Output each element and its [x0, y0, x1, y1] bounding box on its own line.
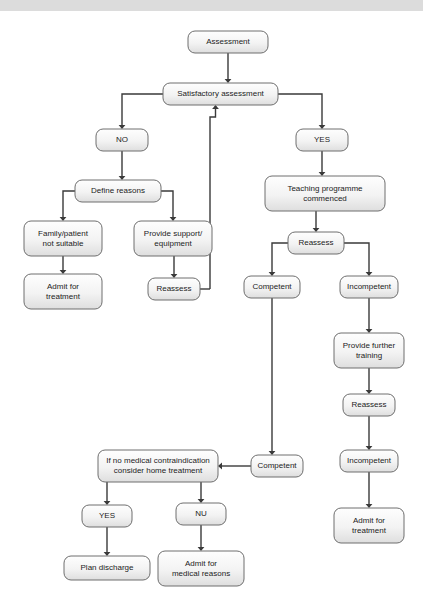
edge-line — [210, 106, 216, 289]
flowchart-canvas: AssessmentSatisfactory assessmentNOYESDe… — [0, 0, 423, 610]
node-label: not suitable — [43, 239, 84, 248]
edge-arrowhead — [366, 329, 373, 333]
edge-line — [344, 243, 369, 275]
flow-node-admit-treatment-left[interactable]: Admit fortreatment — [24, 274, 102, 309]
flow-node-assessment[interactable]: Assessment — [188, 31, 268, 53]
edge-arrowhead — [218, 463, 222, 470]
node-label: If no medical contraindication — [106, 456, 210, 465]
node-label: Family/patient — [38, 229, 89, 238]
edge-arrowhead — [366, 446, 373, 450]
node-label: NU — [195, 509, 207, 518]
flow-node-teaching-programme[interactable]: Teaching programmecommenced — [265, 176, 385, 211]
edge-arrowhead — [366, 390, 373, 394]
flow-node-reassess-right[interactable]: Reassess — [288, 232, 344, 254]
flowchart-svg: AssessmentSatisfactory assessmentNOYESDe… — [0, 0, 423, 610]
edge-arrowhead — [319, 172, 326, 176]
node-label: consider home treatment — [114, 466, 203, 475]
node-label: Plan discharge — [81, 563, 134, 572]
flow-node-reassess-right-2[interactable]: Reassess — [343, 394, 395, 416]
edge-arrowhead — [319, 125, 326, 129]
flow-node-home-treatment[interactable]: If no medical contraindicationconsider h… — [98, 450, 218, 482]
flow-node-provide-support[interactable]: Provide support/equipment — [134, 221, 212, 256]
edge-line — [161, 191, 173, 220]
flow-node-no-2[interactable]: NU — [176, 503, 226, 525]
edge-arrowhead — [60, 217, 67, 221]
node-label: treatment — [352, 526, 387, 535]
edge-arrowhead — [269, 272, 276, 276]
flow-node-plan-discharge[interactable]: Plan discharge — [64, 556, 150, 580]
flow-node-reassess-left[interactable]: Reassess — [148, 278, 200, 300]
flow-node-yes-2[interactable]: YES — [82, 505, 132, 527]
edge-arrowhead — [366, 504, 373, 508]
node-label: Assessment — [206, 37, 250, 46]
node-label: Incompetent — [347, 282, 392, 291]
flow-node-admit-medical-reasons[interactable]: Admit formedical reasons — [158, 551, 244, 586]
node-label: Define reasons — [91, 186, 145, 195]
edge-arrowhead — [225, 79, 232, 83]
node-label: Teaching programme — [287, 184, 363, 193]
node-label: Reassess — [298, 238, 333, 247]
edge-arrowhead — [119, 176, 126, 180]
edge-arrowhead — [366, 272, 373, 276]
node-label: Satisfactory assessment — [177, 89, 264, 98]
node-label: Reassess — [351, 400, 386, 409]
node-label: Admit for — [353, 516, 385, 525]
edge-arrowhead — [60, 270, 67, 274]
edge-line — [122, 94, 163, 128]
node-label: training — [356, 351, 382, 360]
nodes-layer: AssessmentSatisfactory assessmentNOYESDe… — [24, 31, 404, 586]
node-label: Admit for — [185, 559, 217, 568]
node-label: Provide support/ — [144, 229, 203, 238]
edge-line — [63, 191, 75, 220]
flow-node-provide-training[interactable]: Provide furthertraining — [334, 333, 404, 368]
node-label: YES — [314, 135, 330, 144]
edge-arrowhead — [269, 451, 276, 455]
edge-arrowhead — [104, 501, 111, 505]
node-label: Reassess — [156, 284, 191, 293]
flow-node-satisfactory[interactable]: Satisfactory assessment — [163, 83, 278, 105]
edge-arrowhead — [104, 552, 111, 556]
node-label: Competent — [257, 461, 297, 470]
node-label: Provide further — [343, 341, 396, 350]
flow-node-define-reasons[interactable]: Define reasons — [75, 180, 161, 202]
flow-node-competent-top[interactable]: Competent — [244, 276, 300, 298]
edge-line — [272, 243, 288, 275]
flow-node-incompetent-2[interactable]: Incompetent — [340, 450, 398, 472]
node-label: treatment — [46, 292, 81, 301]
node-label: NO — [116, 135, 128, 144]
edge-arrowhead — [212, 105, 219, 109]
edge-arrowhead — [119, 125, 126, 129]
edge-arrowhead — [313, 228, 320, 232]
node-label: Incompetent — [347, 456, 392, 465]
flow-node-yes-1[interactable]: YES — [296, 129, 348, 151]
edge-arrowhead — [171, 274, 178, 278]
node-label: equipment — [154, 239, 192, 248]
flow-node-admit-treatment-right[interactable]: Admit fortreatment — [334, 508, 404, 543]
flow-node-no-1[interactable]: NO — [96, 129, 148, 151]
edge-arrowhead — [198, 499, 205, 503]
flow-node-incompetent-1[interactable]: Incompetent — [340, 276, 398, 298]
edge-arrowhead — [198, 547, 205, 551]
edge-arrowhead — [170, 217, 177, 221]
node-label: Competent — [252, 282, 292, 291]
flow-node-family-not-suitable[interactable]: Family/patientnot suitable — [24, 221, 102, 256]
edge-line — [278, 94, 322, 128]
node-label: YES — [99, 511, 115, 520]
node-label: medical reasons — [172, 569, 230, 578]
node-label: Admit for — [47, 282, 79, 291]
flow-node-competent-bottom[interactable]: Competent — [251, 455, 303, 477]
node-label: commenced — [303, 194, 347, 203]
